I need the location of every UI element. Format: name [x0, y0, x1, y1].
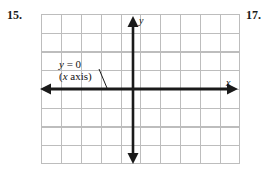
problem-number-left: 15. [7, 9, 22, 21]
coordinate-grid [41, 14, 240, 164]
y-axis-label: y [139, 16, 143, 26]
problem-number-right: 17. [246, 9, 261, 21]
annotation-line-1: y = 0 [59, 58, 92, 70]
annotation-line-2: (x axis) [59, 70, 92, 82]
x-axis-label: x [226, 78, 230, 88]
annotation-axis-text: axis) [68, 70, 92, 82]
annotation-equation-rest: = 0 [64, 58, 81, 70]
worksheet-figure: 15. 17. y = 0 (x axis) y x [0, 0, 266, 181]
annotation-label: y = 0 (x axis) [59, 58, 92, 82]
